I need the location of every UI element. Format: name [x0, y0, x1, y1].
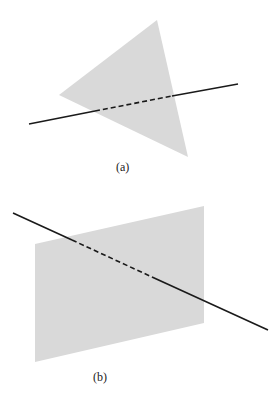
figure-svg — [0, 0, 280, 398]
parallelogram-plane — [35, 206, 204, 362]
line-b-front-left — [13, 213, 72, 240]
line-a-front-left — [29, 111, 95, 124]
caption-b: (b) — [93, 370, 107, 385]
triangle-plane — [59, 20, 188, 157]
figure-a — [29, 20, 238, 157]
diagram-canvas: (a) (b) — [0, 0, 280, 398]
line-a-front-right — [172, 84, 238, 96]
figure-b — [13, 206, 268, 362]
caption-a: (a) — [116, 160, 129, 175]
